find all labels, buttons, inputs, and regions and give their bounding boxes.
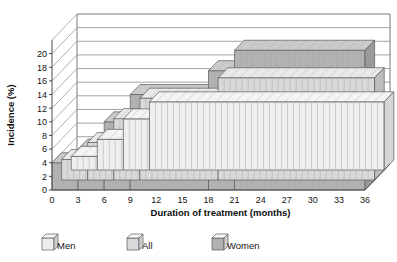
y-tick-label: 14 [37, 90, 47, 100]
x-tick-label: 21 [230, 195, 240, 205]
x-tick-label: 12 [151, 195, 161, 205]
y-tick-label: 20 [37, 49, 47, 59]
x-tick-label: 30 [308, 195, 318, 205]
x-tick-label: 6 [102, 195, 107, 205]
step-area-chart-3d: 024681012141618200369121518212427303336D… [0, 0, 397, 262]
y-tick-label: 2 [42, 172, 47, 182]
chart-legend: MenAllWomen [42, 234, 260, 251]
legend-swatch [127, 238, 139, 250]
y-axis-title: Incidence (%) [5, 84, 16, 145]
y-tick-label: 12 [37, 104, 47, 114]
legend-item-all: All [127, 234, 153, 251]
x-axis-title: Duration of treatment (months) [151, 207, 291, 218]
x-tick-label: 3 [76, 195, 81, 205]
x-tick-label: 33 [334, 195, 344, 205]
legend-label: Women [227, 240, 260, 251]
y-tick-label: 18 [37, 63, 47, 73]
x-tick-label: 36 [360, 195, 370, 205]
y-tick-label: 10 [37, 117, 47, 127]
y-tick-label: 4 [42, 158, 47, 168]
x-tick-label: 24 [256, 195, 266, 205]
legend-item-men: Men [42, 234, 75, 251]
legend-item-women: Women [212, 234, 260, 251]
y-tick-label: 16 [37, 76, 47, 86]
legend-label: All [142, 240, 153, 251]
x-tick-label: 18 [203, 195, 213, 205]
x-tick-label: 15 [177, 195, 187, 205]
x-tick-label: 0 [49, 195, 54, 205]
y-tick-label: 0 [42, 185, 47, 195]
y-tick-label: 8 [42, 131, 47, 141]
legend-swatch [212, 238, 224, 250]
x-tick-label: 27 [282, 195, 292, 205]
chart-figure: 024681012141618200369121518212427303336D… [0, 0, 397, 262]
legend-swatch [42, 238, 54, 250]
x-tick-label: 9 [128, 195, 133, 205]
y-tick-label: 6 [42, 144, 47, 154]
legend-label: Men [57, 240, 75, 251]
